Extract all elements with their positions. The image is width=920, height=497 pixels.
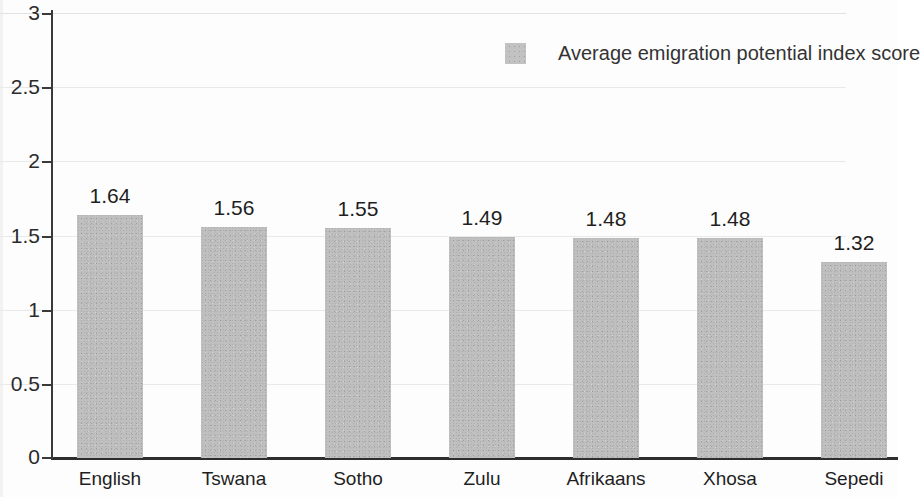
y-axis-tick-label: 0.5 xyxy=(0,372,40,396)
legend-entry-label: Average emigration potential index score xyxy=(558,42,920,65)
bar-value-label: 1.55 xyxy=(313,197,403,221)
y-axis-tick-label: 3 xyxy=(0,1,40,25)
x-axis-category-label: Zulu xyxy=(420,468,544,490)
x-axis-category-label: English xyxy=(48,468,172,490)
y-axis-tick-label: 2 xyxy=(0,149,40,173)
x-axis-category-label: Xhosa xyxy=(668,468,792,490)
bar-xhosa[interactable] xyxy=(697,238,763,458)
bar-afrikaans[interactable] xyxy=(573,238,639,458)
bar-value-label: 1.48 xyxy=(685,207,775,231)
bar-sepedi[interactable] xyxy=(821,262,887,458)
bar-value-label: 1.48 xyxy=(561,207,651,231)
bar-value-label: 1.56 xyxy=(189,196,279,220)
bar-zulu[interactable] xyxy=(449,237,515,458)
legend-swatch-icon xyxy=(505,43,526,64)
y-axis-tick-label: 2.5 xyxy=(0,75,40,99)
x-axis-category-label: Sotho xyxy=(296,468,420,490)
x-axis-category-label: Tswana xyxy=(172,468,296,490)
bar-value-label: 1.49 xyxy=(437,206,527,230)
bar-value-label: 1.32 xyxy=(809,231,899,255)
x-axis-category-label: Afrikaans xyxy=(544,468,668,490)
y-axis-tick-label: 0 xyxy=(0,445,40,469)
bar-value-label: 1.64 xyxy=(65,184,155,208)
chart-legend: Average emigration potential index score xyxy=(505,42,920,65)
bar-english[interactable] xyxy=(77,215,143,458)
bar-sotho[interactable] xyxy=(325,228,391,458)
y-axis-tick-label: 1 xyxy=(0,298,40,322)
bar-tswana[interactable] xyxy=(201,227,267,458)
x-axis-category-label: Sepedi xyxy=(792,468,916,490)
plot-area xyxy=(52,13,898,458)
y-axis-tick-label: 1.5 xyxy=(0,224,40,248)
